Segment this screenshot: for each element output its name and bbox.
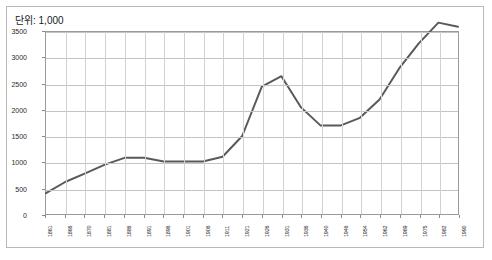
x-axis-tick-label: 1975: [422, 226, 428, 237]
x-axis-tick-mark: [380, 215, 381, 218]
x-axis-tick-mark: [420, 215, 421, 218]
x-axis-tick-mark: [203, 215, 204, 218]
x-axis-tick-label: 1921: [244, 226, 250, 237]
x-axis-tick-mark: [65, 215, 66, 218]
x-axis-tick-label: 1870: [86, 226, 92, 237]
x-axis: 1861186618701881188618911896190119061911…: [7, 7, 483, 247]
x-axis-tick-mark: [163, 215, 164, 218]
x-axis-tick-label: 1969: [402, 226, 408, 237]
x-axis-tick-label: 1990: [461, 226, 467, 237]
x-axis-tick-mark: [360, 215, 361, 218]
chart-frame: 단위: 1,000 0500100015002000250030003500 1…: [6, 6, 484, 248]
x-axis-tick-mark: [400, 215, 401, 218]
x-axis-tick-mark: [124, 215, 125, 218]
x-axis-tick-label: 1896: [165, 226, 171, 237]
x-axis-tick-label: 1911: [224, 226, 230, 237]
x-axis-tick-label: 1861: [47, 226, 53, 237]
x-axis-tick-mark: [222, 215, 223, 218]
x-axis-tick-mark: [242, 215, 243, 218]
x-axis-tick-label: 1891: [146, 226, 152, 237]
x-axis-tick-mark: [104, 215, 105, 218]
x-axis-tick-label: 1954: [362, 226, 368, 237]
x-axis-tick-label: 1886: [126, 226, 132, 237]
x-axis-tick-label: 1962: [382, 226, 388, 237]
x-axis-tick-label: 1946: [343, 226, 349, 237]
x-axis-tick-mark: [84, 215, 85, 218]
x-axis-tick-mark: [282, 215, 283, 218]
x-axis-tick-mark: [459, 215, 460, 218]
x-axis-tick-mark: [183, 215, 184, 218]
x-axis-tick-label: 1881: [106, 226, 112, 237]
x-axis-tick-label: 1931: [284, 226, 290, 237]
x-axis-tick-mark: [321, 215, 322, 218]
x-axis-tick-label: 1906: [205, 226, 211, 237]
x-axis-tick-label: 1926: [264, 226, 270, 237]
x-axis-tick-mark: [301, 215, 302, 218]
x-axis-tick-mark: [439, 215, 440, 218]
x-axis-tick-label: 1866: [67, 226, 73, 237]
x-axis-tick-mark: [45, 215, 46, 218]
x-axis-tick-mark: [144, 215, 145, 218]
x-axis-tick-mark: [262, 215, 263, 218]
x-axis-tick-label: 1901: [185, 226, 191, 237]
x-axis-tick-label: 1940: [323, 226, 329, 237]
x-axis-tick-label: 1936: [303, 226, 309, 237]
x-axis-tick-label: 1982: [441, 226, 447, 237]
x-axis-tick-mark: [341, 215, 342, 218]
